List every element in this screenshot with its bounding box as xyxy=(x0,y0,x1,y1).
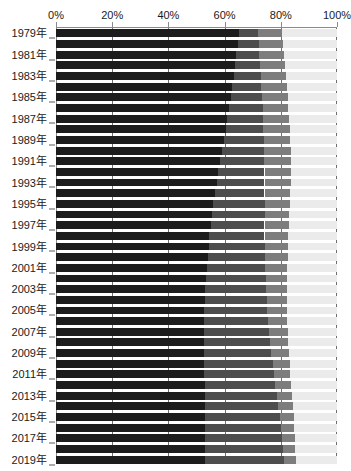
bar-segment-2 xyxy=(205,434,281,442)
bar-row xyxy=(56,253,336,261)
bar-segment-4 xyxy=(295,434,337,442)
y-axis-tick-label: 2015年 xyxy=(12,408,47,424)
bar-segment-4 xyxy=(289,349,337,357)
bar-segment-3 xyxy=(284,456,296,464)
bar-segment-4 xyxy=(291,147,337,155)
y-axis-tick-mark xyxy=(49,379,55,380)
bar-segment-3 xyxy=(260,61,285,69)
bar-row xyxy=(56,104,336,112)
bar-segment-1 xyxy=(56,29,239,37)
bar-segment-4 xyxy=(290,360,337,368)
bar-segment-1 xyxy=(56,360,204,368)
y-axis-tick-label: 1999年 xyxy=(12,238,47,254)
bar-segment-3 xyxy=(265,264,287,272)
x-axis-tick-label: 0% xyxy=(48,9,64,21)
bar-segment-1 xyxy=(56,93,231,101)
bar-row xyxy=(56,168,336,176)
bar-segment-3 xyxy=(263,115,289,123)
bar-segment-3 xyxy=(262,93,288,101)
bar-segment-1 xyxy=(56,168,218,176)
bar-segment-2 xyxy=(206,275,266,283)
bar-row xyxy=(56,189,336,197)
y-axis-tick-mark xyxy=(49,166,55,167)
y-axis-tick-mark xyxy=(49,102,55,103)
bar-segment-1 xyxy=(56,370,204,378)
bar-row xyxy=(56,147,336,155)
x-axis-tick-label: 40% xyxy=(157,9,179,21)
bar-row xyxy=(56,211,336,219)
bar-row xyxy=(56,392,336,400)
y-axis-tick-label: 2003年 xyxy=(12,280,47,296)
bar-segment-4 xyxy=(283,40,337,48)
bar-segment-1 xyxy=(56,125,226,133)
bar-segment-4 xyxy=(287,296,337,304)
bar-row xyxy=(56,40,336,48)
y-axis-tick-mark xyxy=(49,38,55,39)
bar-segment-2 xyxy=(232,83,261,91)
bar-segment-1 xyxy=(56,51,236,59)
bar-segment-4 xyxy=(290,136,337,144)
bar-segment-4 xyxy=(287,307,337,315)
bar-row xyxy=(56,445,336,453)
bar-segment-2 xyxy=(212,211,265,219)
bar-segment-3 xyxy=(267,307,287,315)
bar-segment-4 xyxy=(282,29,337,37)
bar-segment-4 xyxy=(295,445,337,453)
bar-segment-3 xyxy=(261,72,286,80)
y-axis-tick-mark xyxy=(49,123,55,124)
bar-segment-4 xyxy=(296,456,337,464)
bar-row xyxy=(56,72,336,80)
bar-row xyxy=(56,402,336,410)
bar-segment-2 xyxy=(204,360,273,368)
bar-segment-1 xyxy=(56,72,234,80)
bar-segment-2 xyxy=(239,29,259,37)
bar-segment-1 xyxy=(56,317,204,325)
bar-segment-2 xyxy=(218,168,264,176)
bar-segment-3 xyxy=(266,285,287,293)
y-axis-tick-mark xyxy=(49,251,55,252)
x-axis-tick-label: 80% xyxy=(270,9,292,21)
bar-segment-4 xyxy=(288,243,337,251)
bar-row xyxy=(56,413,336,421)
bar-segment-2 xyxy=(209,232,264,240)
bar-row xyxy=(56,115,336,123)
bar-segment-4 xyxy=(288,93,337,101)
bar-segment-2 xyxy=(207,264,265,272)
bar-segment-2 xyxy=(204,370,274,378)
y-axis-tick-label: 1985年 xyxy=(12,88,47,104)
bar-segment-1 xyxy=(56,189,215,197)
bar-segment-3 xyxy=(265,253,287,261)
bar-segment-1 xyxy=(56,147,222,155)
bar-segment-4 xyxy=(290,189,337,197)
bar-row xyxy=(56,360,336,368)
y-axis-tick-label: 1997年 xyxy=(12,216,47,232)
bar-segment-1 xyxy=(56,413,205,421)
bar-segment-4 xyxy=(291,179,337,187)
y-axis-tick-label: 2011年 xyxy=(12,365,47,381)
bar-segment-2 xyxy=(205,445,283,453)
bar-segment-2 xyxy=(231,93,262,101)
bar-segment-1 xyxy=(56,83,232,91)
bar-segment-1 xyxy=(56,61,235,69)
bar-segment-1 xyxy=(56,136,224,144)
x-axis-tick-labels: 0%20%40%60%80%100% xyxy=(0,9,347,23)
y-axis-tick-label: 1989年 xyxy=(12,131,47,147)
y-axis-tick-label: 2013年 xyxy=(12,387,47,403)
bar-segment-3 xyxy=(265,221,289,229)
bar-segment-4 xyxy=(288,338,337,346)
bar-segment-1 xyxy=(56,264,207,272)
bar-segment-2 xyxy=(226,125,264,133)
bar-segment-3 xyxy=(273,360,290,368)
y-axis-tick-mark xyxy=(49,336,55,337)
bar-segment-2 xyxy=(205,402,278,410)
bar-segment-1 xyxy=(56,328,204,336)
y-axis-tick-label: 1981年 xyxy=(12,46,47,62)
bar-row xyxy=(56,264,336,272)
bar-segment-4 xyxy=(290,125,337,133)
bar-segment-2 xyxy=(220,157,264,165)
bar-segment-4 xyxy=(287,275,337,283)
bar-segment-3 xyxy=(274,370,290,378)
bar-segment-3 xyxy=(277,392,292,400)
bar-segment-3 xyxy=(259,51,283,59)
bar-segment-1 xyxy=(56,221,211,229)
